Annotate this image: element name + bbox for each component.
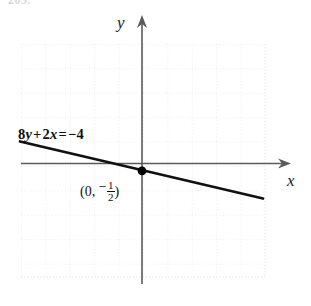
- coordinate-plane: [0, 0, 311, 306]
- equation-label: 8y+2x=−4: [18, 127, 84, 142]
- grid-lines: [21, 44, 265, 277]
- x-axis-label: x: [287, 172, 295, 189]
- equation-right-hand-side: −4: [68, 126, 84, 142]
- equation-coef-x: 2: [43, 126, 50, 142]
- fraction-denominator: 2: [107, 192, 115, 203]
- point-minus-sign: −: [99, 179, 107, 194]
- equation-equals-sign: =: [57, 126, 67, 142]
- graph-figure: 205.: [0, 0, 311, 306]
- y-axis-label: y: [117, 14, 125, 31]
- equation-plus-sign: +: [32, 126, 42, 142]
- y-intercept-point: [138, 166, 147, 175]
- point-coordinate-label: (0, −12): [80, 181, 119, 204]
- point-close-paren: ): [115, 184, 120, 199]
- point-fraction: 12: [107, 180, 115, 203]
- point-x-value: 0,: [85, 184, 96, 199]
